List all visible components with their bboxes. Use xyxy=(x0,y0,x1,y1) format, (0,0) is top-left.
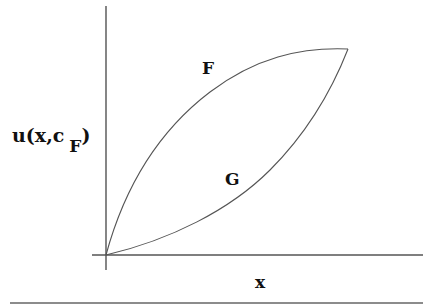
y-axis-label-subscript: F xyxy=(69,136,81,156)
y-axis-label-close: ) xyxy=(81,124,90,146)
diagram-canvas: F G u(x,cF) x xyxy=(0,0,432,308)
x-axis-label: x xyxy=(255,272,266,292)
y-axis-label: u(x,cF) xyxy=(12,124,90,156)
curve-g-label: G xyxy=(225,169,240,189)
y-axis-label-main: u(x,c xyxy=(12,124,64,146)
curve-f-label: F xyxy=(202,58,214,78)
curve-f xyxy=(106,49,348,255)
